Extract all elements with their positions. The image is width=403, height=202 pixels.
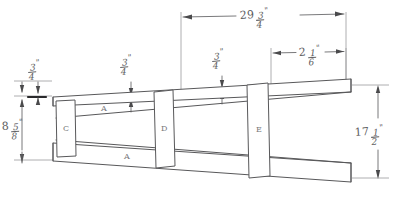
dim-label-thickness-center: 34" — [118, 53, 133, 76]
dim-label-left-height: 858" — [1, 118, 24, 142]
arrow-left-29 — [183, 15, 192, 20]
arrow-right-29 — [335, 12, 344, 17]
arrow-right-height-up — [376, 85, 380, 93]
arrow-right-seg — [336, 49, 344, 53]
dim-label-thickness-left: 34" — [26, 58, 41, 81]
part-label-a-upper: A — [101, 105, 107, 113]
dim-label-overall-length: 2934" — [239, 6, 269, 31]
part-label-e: E — [256, 126, 262, 134]
arrow-thk-left-up — [36, 98, 40, 106]
arrow-thk-left-down — [20, 85, 24, 93]
lower-rail-band — [53, 143, 351, 182]
dim-thickness-left — [20, 82, 46, 105]
dim-label-thickness-right: 34" — [210, 47, 225, 70]
technical-drawing-canvas: 2934" 216" 34" 34" 34" 858" 1712" C D E … — [0, 0, 403, 202]
dim-label-right-height: 1712" — [354, 123, 384, 148]
frame-assembly — [53, 79, 351, 182]
arrow-thk-left-down-b — [36, 86, 40, 94]
upper-rail-band — [53, 79, 351, 106]
part-label-a-lower: A — [124, 153, 130, 161]
part-label-c: C — [63, 125, 69, 133]
sketch-geometry — [0, 0, 403, 202]
arrow-left-height-up — [20, 99, 24, 107]
dim-label-segment-right: 216" — [298, 44, 321, 68]
arrow-left-seg — [273, 51, 281, 55]
part-label-d: D — [161, 125, 167, 133]
